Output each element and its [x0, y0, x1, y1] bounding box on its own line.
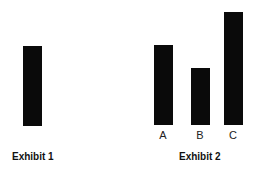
bar-b: [191, 68, 210, 125]
bar-a: [154, 45, 173, 125]
exhibit-1-bar: [23, 46, 42, 126]
category-label-a: A: [153, 129, 173, 141]
exhibit-1-caption: Exhibit 1: [12, 151, 54, 162]
category-label-b: B: [190, 129, 210, 141]
category-label-c: C: [223, 129, 243, 141]
bar-c: [224, 12, 243, 125]
exhibit-2-caption: Exhibit 2: [179, 151, 221, 162]
